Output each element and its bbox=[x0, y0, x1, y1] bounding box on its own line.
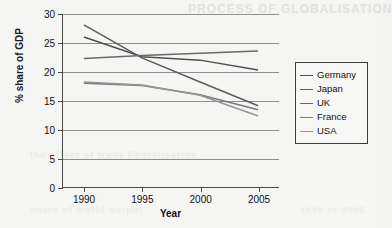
legend-label: France bbox=[317, 112, 347, 122]
series-lines bbox=[63, 14, 279, 187]
legend-item-uk[interactable]: UK bbox=[300, 96, 363, 110]
y-axis-label: % share of GDP bbox=[14, 16, 25, 116]
series-line-france bbox=[84, 83, 258, 110]
series-line-uk bbox=[84, 51, 258, 58]
y-tick bbox=[58, 188, 63, 189]
x-tick-label: 2000 bbox=[190, 194, 212, 205]
x-tick bbox=[259, 187, 260, 192]
legend-swatch-icon bbox=[300, 131, 313, 132]
y-tick-label: 20 bbox=[44, 67, 55, 78]
x-tick bbox=[201, 187, 202, 192]
x-axis-label: Year bbox=[62, 208, 279, 219]
line-chart: % share of GDP 051015202530 199019952000… bbox=[0, 8, 375, 223]
legend-item-france[interactable]: France bbox=[300, 110, 363, 124]
y-tick-label: 30 bbox=[44, 9, 55, 20]
x-tick-label: 2005 bbox=[248, 194, 270, 205]
series-line-usa bbox=[84, 82, 258, 116]
legend-swatch-icon bbox=[300, 117, 313, 118]
legend-label: USA bbox=[317, 126, 337, 136]
plot-area: 051015202530 1990199520002005 bbox=[62, 14, 279, 188]
y-tick-label: 5 bbox=[49, 154, 55, 165]
legend-swatch-icon bbox=[300, 103, 313, 104]
y-tick-label: 15 bbox=[44, 96, 55, 107]
x-tick bbox=[142, 187, 143, 192]
legend-label: Germany bbox=[317, 70, 356, 80]
x-tick bbox=[84, 187, 85, 192]
x-tick-label: 1995 bbox=[131, 194, 153, 205]
legend-label: UK bbox=[317, 98, 330, 108]
series-line-germany bbox=[84, 37, 258, 70]
y-tick-label: 10 bbox=[44, 125, 55, 136]
chart-legend: GermanyJapanUKFranceUSA bbox=[295, 62, 368, 144]
legend-label: Japan bbox=[317, 84, 343, 94]
legend-item-japan[interactable]: Japan bbox=[300, 82, 363, 96]
y-tick-label: 0 bbox=[49, 183, 55, 194]
y-tick-label: 25 bbox=[44, 38, 55, 49]
legend-swatch-icon bbox=[300, 89, 313, 90]
legend-item-usa[interactable]: USA bbox=[300, 124, 363, 138]
x-tick-label: 1990 bbox=[73, 194, 95, 205]
legend-swatch-icon bbox=[300, 75, 313, 76]
legend-item-germany[interactable]: Germany bbox=[300, 68, 363, 82]
